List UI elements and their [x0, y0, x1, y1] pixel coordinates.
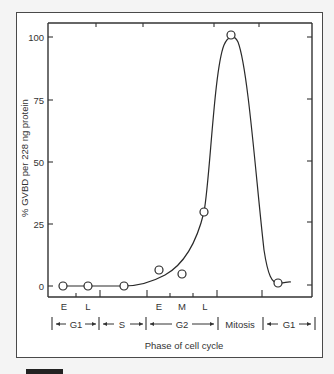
caption-bar	[26, 369, 63, 374]
substage-g2-m: M	[178, 301, 186, 312]
data-points	[59, 31, 282, 290]
phase-mitosis: Mitosis	[225, 319, 255, 330]
y-ticks	[48, 23, 312, 297]
substage-g1-e: E	[61, 301, 67, 312]
y-tick-labels: 0 25 50 75 100	[28, 32, 44, 292]
data-point	[227, 31, 235, 39]
ytick-0: 0	[39, 281, 44, 292]
phase-s: S	[119, 319, 125, 330]
data-point	[200, 208, 208, 216]
substage-g2-l: L	[202, 301, 207, 312]
substage-g1-l: L	[85, 301, 90, 312]
x-axis-label: Phase of cell cycle	[145, 340, 224, 351]
phase-g2: G2	[176, 319, 189, 330]
data-point	[59, 282, 67, 290]
y-axis-label: % GVBD per 228 ng protein	[19, 99, 30, 217]
chart-svg: 0 25 50 75 100 % GVBD per 228 ng protein…	[0, 0, 334, 374]
ytick-100: 100	[28, 32, 44, 43]
plot-area	[48, 23, 312, 297]
fitted-curve	[63, 37, 291, 286]
data-point	[178, 270, 186, 278]
phase-g1-2: G1	[283, 319, 296, 330]
data-point	[274, 279, 282, 287]
data-point	[84, 282, 92, 290]
ytick-50: 50	[33, 157, 44, 168]
ytick-75: 75	[33, 95, 44, 106]
substage-labels: E L E M L	[61, 301, 208, 312]
data-point	[120, 282, 128, 290]
substage-g2-e: E	[156, 301, 162, 312]
phase-g1: G1	[70, 319, 83, 330]
data-point	[155, 266, 163, 274]
ytick-25: 25	[33, 219, 44, 230]
